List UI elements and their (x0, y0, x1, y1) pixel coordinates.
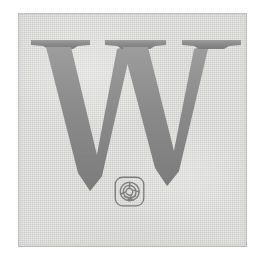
decorative-panel (18, 13, 247, 247)
letter-w-glyph (18, 13, 247, 247)
image-alt-text: Decorative drop capital letter W on a gr… (0, 0, 1, 1)
scan-page: Decorative drop capital letter W on a gr… (0, 0, 271, 265)
rose-emblem-glyph (113, 175, 146, 208)
drop-cap-initial (18, 13, 247, 247)
rose-monogram-emblem (113, 175, 146, 208)
